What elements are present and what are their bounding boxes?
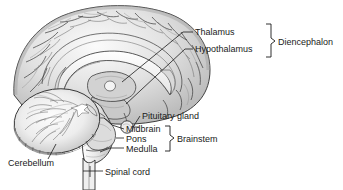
label-medulla: Medulla bbox=[126, 144, 158, 154]
brain-diagram-figure: Thalamus Hypothalamus Diencephalon Pitui… bbox=[0, 0, 343, 190]
label-hypothalamus: Hypothalamus bbox=[195, 44, 253, 54]
label-cerebellum: Cerebellum bbox=[8, 158, 54, 168]
bracket-brainstem bbox=[165, 126, 174, 151]
label-midbrain: Midbrain bbox=[126, 124, 161, 134]
label-brainstem: Brainstem bbox=[177, 134, 218, 144]
label-thalamus: Thalamus bbox=[195, 27, 235, 37]
label-pons: Pons bbox=[126, 134, 147, 144]
label-diencephalon: Diencephalon bbox=[278, 37, 333, 47]
label-pituitary-gland: Pituitary gland bbox=[142, 111, 199, 121]
label-spinal-cord: Spinal cord bbox=[105, 167, 150, 177]
spinal-cord bbox=[83, 158, 95, 190]
brain-diagram-svg: Thalamus Hypothalamus Diencephalon Pitui… bbox=[0, 0, 343, 190]
massa-intermedia bbox=[105, 81, 116, 91]
bracket-diencephalon bbox=[266, 24, 275, 57]
